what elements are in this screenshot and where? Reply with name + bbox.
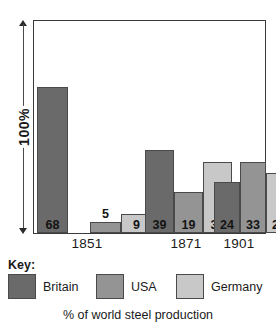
- bar-britain-1871[interactable]: 39: [145, 21, 174, 233]
- bar-britain-1901[interactable]: 24: [214, 21, 240, 233]
- legend-item-germany[interactable]: Germany: [176, 274, 262, 299]
- bar-value-label: 28: [267, 219, 276, 232]
- bar-rect: 39: [145, 150, 174, 233]
- bar-usa-1871[interactable]: 19: [174, 21, 203, 233]
- bar-value-label: 33: [241, 219, 265, 232]
- bar-value-label: 19: [175, 219, 202, 232]
- bar-rect: 24: [214, 182, 240, 233]
- bar-rect: 28: [266, 173, 276, 233]
- bar-rect: 19: [174, 192, 203, 233]
- legend-swatch-britain: [8, 274, 36, 299]
- legend-item-usa[interactable]: USA: [96, 274, 157, 299]
- bar-value-label: 39: [146, 219, 173, 232]
- legend-swatch-usa: [96, 274, 124, 299]
- bar-group-1901: 243328: [214, 21, 276, 233]
- legend-title: Key:: [8, 258, 35, 272]
- bar-value-label: 68: [38, 219, 67, 232]
- chart-caption: % of world steel production: [0, 308, 276, 322]
- bar-group-1851: 6859: [37, 21, 152, 233]
- bar-britain-1851[interactable]: 68: [37, 21, 68, 233]
- bar-rect: 33: [240, 162, 266, 233]
- legend-label: Germany: [211, 280, 262, 294]
- legend-swatch-germany: [176, 274, 204, 299]
- chart-plot-frame: 6859391933243328: [33, 20, 266, 234]
- bar-value-label: 24: [215, 219, 239, 232]
- bar-value-label: 5: [91, 208, 120, 221]
- arrow-down-icon: [19, 228, 27, 234]
- legend-label: USA: [131, 280, 157, 294]
- legend-item-britain[interactable]: Britain: [8, 274, 78, 299]
- x-axis-label-1901: 1901: [206, 236, 272, 251]
- legend: BritainUSAGermany: [8, 274, 270, 304]
- bars-container: 6859391933243328: [34, 21, 265, 233]
- legend-label: Britain: [43, 280, 78, 294]
- bar-germany-1901[interactable]: 28: [266, 21, 276, 233]
- bar-usa-1901[interactable]: 33: [240, 21, 266, 233]
- y-axis-label: 100%: [14, 106, 34, 148]
- bar-usa-1851[interactable]: 5: [90, 21, 121, 233]
- x-axis-label-1851: 1851: [33, 236, 141, 251]
- bar-rect: 5: [90, 222, 121, 233]
- bar-rect: 68: [37, 87, 68, 233]
- y-axis-scale-indicator: 100%: [14, 20, 34, 234]
